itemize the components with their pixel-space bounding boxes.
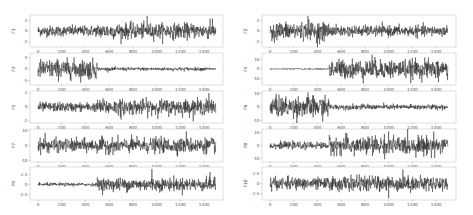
subplot-f9: -2.502.5F90200400600800100012001400 (11, 167, 223, 207)
y-tick-label: 0 (257, 66, 260, 71)
y-axis-label: F10 (243, 179, 248, 187)
y-tick-label: -10 (253, 118, 260, 123)
subplot-f4: -10010F40200400600800100012001400 (243, 53, 456, 92)
y-tick-label: 10 (254, 91, 260, 96)
y-tick-label: 0 (257, 28, 260, 33)
subplot-f5: -202F50200400600800100012001400 (11, 90, 223, 130)
y-tick-label: 0 (25, 143, 28, 148)
y-tick-label: -10 (253, 156, 260, 161)
y-tick-label: 0 (257, 104, 260, 109)
y-tick-label: 2.5 (21, 172, 28, 177)
y-tick-label: -2 (23, 39, 28, 44)
y-tick-label: 0 (257, 181, 260, 186)
y-axis-label: F9 (11, 181, 16, 187)
y-tick-label: -2 (255, 39, 260, 44)
subplot-f6: -10010F60200400600800100012001400 (243, 91, 456, 130)
x-tick-label: 1400 (199, 202, 210, 207)
y-axis-label: F6 (243, 104, 248, 110)
x-tick-label: 1200 (175, 202, 186, 207)
y-axis-label: F2 (243, 28, 248, 34)
y-tick-label: 10 (254, 57, 260, 62)
subplot-f3: -505F30200400600800100012001400 (11, 53, 223, 92)
y-tick-label: 2 (25, 90, 28, 95)
x-tick-label: 200 (290, 202, 298, 207)
y-axis-label: F3 (11, 66, 16, 72)
y-tick-label: -2 (23, 118, 28, 123)
x-tick-label: 1400 (431, 202, 442, 207)
y-tick-label: 5 (25, 55, 28, 60)
x-tick-label: 1200 (407, 202, 418, 207)
y-axis-label: F8 (243, 143, 248, 149)
x-tick-label: 1000 (383, 202, 394, 207)
y-axis-label: F4 (243, 66, 248, 72)
y-axis-label: F7 (11, 143, 16, 149)
y-tick-label: 2.5 (253, 171, 260, 176)
figure-canvas: -202F10200400600800100012001400-505F3020… (0, 0, 473, 215)
x-tick-label: 400 (313, 202, 321, 207)
x-tick-label: 400 (81, 202, 89, 207)
y-tick-label: 0 (25, 66, 28, 71)
subplot-f7: -10010F70200400600800100012001400 (11, 128, 223, 169)
subplot-f10: -2.502.5F100200400600800100012001400 (243, 167, 456, 207)
y-axis-label: F5 (11, 104, 16, 110)
y-axis-label: F1 (11, 28, 16, 34)
y-tick-label: -2.5 (19, 192, 28, 197)
y-tick-label: 0 (25, 182, 28, 187)
y-tick-label: -10 (21, 158, 28, 163)
x-tick-label: 200 (58, 202, 66, 207)
x-tick-label: 800 (129, 202, 137, 207)
x-tick-label: 0 (37, 202, 40, 207)
y-tick-label: 0 (257, 143, 260, 148)
y-tick-label: 0 (25, 104, 28, 109)
subplot-f1: -202F10200400600800100012001400 (11, 15, 223, 54)
y-tick-label: -2.5 (251, 191, 260, 196)
y-tick-label: 2 (25, 18, 28, 23)
x-tick-label: 600 (105, 202, 113, 207)
x-tick-label: 800 (361, 202, 369, 207)
subplot-f8: -10010F80200400600800100012001400 (243, 129, 456, 169)
y-tick-label: -10 (253, 76, 260, 81)
y-tick-label: 0 (25, 28, 28, 33)
y-tick-label: -5 (23, 78, 28, 83)
y-tick-label: 10 (254, 130, 260, 135)
subplot-f2: -202F20200400600800100012001400 (243, 15, 456, 54)
x-tick-label: 600 (337, 202, 345, 207)
y-tick-label: 2 (257, 18, 260, 23)
y-tick-label: 10 (22, 128, 28, 133)
x-tick-label: 0 (269, 202, 272, 207)
x-tick-label: 1000 (151, 202, 162, 207)
